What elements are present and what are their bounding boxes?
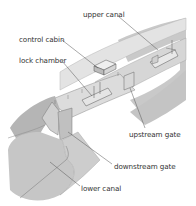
label-control-cabin: control cabin — [19, 36, 64, 43]
label-downstream-gate: downstream gate — [114, 163, 176, 170]
label-upstream-gate: upstream gate — [129, 131, 181, 138]
canal-lock-illustration — [0, 0, 196, 206]
label-lower-canal: lower canal — [81, 185, 121, 192]
downstream-gate-wall — [58, 108, 72, 140]
label-upper-canal: upper canal — [83, 11, 125, 18]
label-lock-chamber: lock chamber — [19, 57, 66, 64]
